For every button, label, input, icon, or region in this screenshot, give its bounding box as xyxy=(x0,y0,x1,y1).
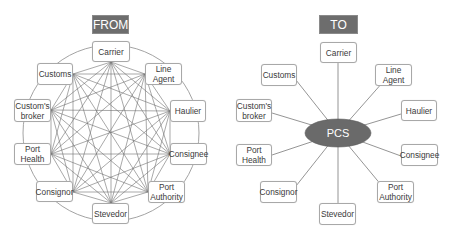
pcs-hub-label: PCS xyxy=(306,126,370,140)
from-node-haulier: Haulier xyxy=(170,100,206,122)
to-node-customs: Customs xyxy=(261,64,297,86)
to-node-stevedor: Stevedor xyxy=(319,203,356,225)
from-title: FROM xyxy=(92,15,129,34)
to-node-carrier: Carrier xyxy=(320,42,357,63)
to-node-customs-broker: Custom's broker xyxy=(236,99,272,122)
to-node-port-health: Port Health xyxy=(236,144,272,166)
from-node-carrier: Carrier xyxy=(92,41,130,62)
to-node-haulier: Haulier xyxy=(401,100,437,121)
from-node-port-health: Port Health xyxy=(14,143,51,165)
diagram-stage: FROM Carrier Line Agent Haulier Consigne… xyxy=(0,0,449,237)
from-node-customs-broker: Custom's broker xyxy=(14,99,51,122)
to-node-line-agent: Line Agent xyxy=(375,64,412,86)
from-node-line-agent: Line Agent xyxy=(145,63,182,85)
from-node-stevedor: Stevedor xyxy=(92,203,129,224)
to-node-port-authority: Port Authority xyxy=(377,181,414,203)
from-node-consignee: Consignee xyxy=(170,143,207,165)
to-node-consignor: Consignor xyxy=(260,181,297,203)
to-node-consignee: Consignee xyxy=(401,144,438,166)
from-node-consignor: Consignor xyxy=(36,181,73,202)
from-node-port-authority: Port Authority xyxy=(148,181,185,203)
from-node-customs: Customs xyxy=(37,63,73,85)
to-title: TO xyxy=(319,15,358,34)
